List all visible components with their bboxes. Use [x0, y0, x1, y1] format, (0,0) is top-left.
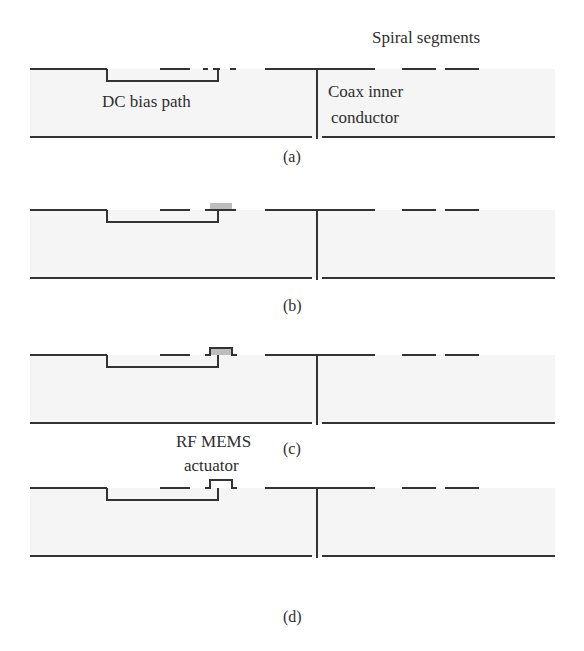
caption-b: (b) — [283, 297, 302, 315]
panel-b — [30, 203, 555, 280]
caption-a: (a) — [283, 148, 301, 166]
label-coax-inner: Coax inner — [328, 82, 403, 102]
label-spiral-segments: Spiral segments — [372, 28, 480, 48]
label-coax-conductor: conductor — [331, 108, 399, 128]
label-actuator: actuator — [184, 456, 239, 476]
caption-d: (d) — [283, 608, 302, 626]
panel-c — [30, 348, 555, 425]
diagram-canvas — [0, 0, 584, 651]
label-rf-mems: RF MEMS — [176, 432, 251, 452]
caption-c: (c) — [283, 440, 301, 458]
label-dc-bias-path: DC bias path — [102, 92, 191, 112]
panel-d — [30, 480, 555, 558]
